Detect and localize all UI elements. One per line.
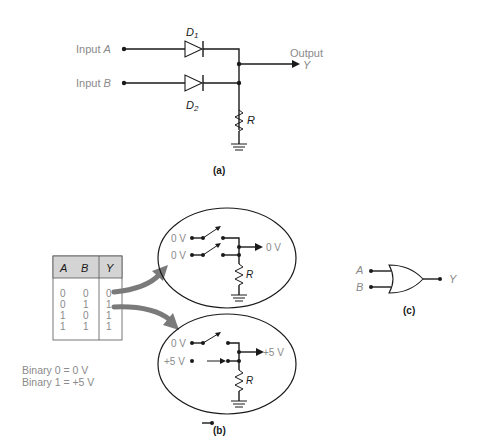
circuit-case-01: 0 V +5 V +5 V R: [158, 314, 296, 414]
ground-icon: [231, 401, 247, 407]
svg-text:1: 1: [106, 299, 112, 310]
header-b: B: [81, 262, 88, 274]
open-switch-icon: [203, 334, 218, 343]
resistor-label: R: [246, 269, 253, 280]
diode-d2-icon: [185, 75, 203, 91]
ground-icon: [231, 144, 247, 150]
wire: [203, 49, 239, 130]
resistor-label: R: [246, 375, 253, 386]
gate-output-y: Y: [449, 273, 457, 285]
output-voltage: 0 V: [266, 242, 281, 253]
input-a-label: Input A: [76, 43, 111, 55]
output-var: Y: [303, 59, 311, 71]
d2-label: D2: [186, 99, 199, 113]
caption-c: (c): [403, 305, 415, 316]
input-2-voltage: +5 V: [164, 356, 185, 367]
input-b-label: Input B: [76, 77, 111, 89]
svg-text:1: 1: [83, 321, 89, 332]
output-arrow-icon: [292, 60, 300, 68]
svg-text:0: 0: [83, 310, 89, 321]
header-a: A: [59, 262, 67, 274]
or-gate-figure: Input A D1 Input B D2 Output Y R: [0, 0, 483, 447]
resistor-icon: [235, 370, 243, 391]
gate-input-a: A: [355, 264, 363, 276]
svg-text:1: 1: [60, 321, 66, 332]
or-gate-symbol: A B Y (c): [355, 264, 457, 316]
caption-b: (b): [213, 425, 226, 436]
resistor-icon: [235, 264, 243, 285]
gate-input-b: B: [356, 281, 363, 293]
circuit-case-00: 0 V 0 V 0 V R: [158, 208, 296, 308]
caption-a: (a): [213, 165, 225, 176]
truth-table: A B Y 0 0 0 0 1 1 1 0 1 1 1 1: [53, 256, 122, 340]
output-arrow-icon: [255, 243, 263, 251]
svg-text:1: 1: [106, 310, 112, 321]
input-1-voltage: 0 V: [171, 338, 186, 349]
d1-label: D1: [186, 26, 198, 40]
input-2-voltage: 0 V: [171, 250, 186, 261]
junction-dot: [237, 81, 241, 85]
curved-arrow-icon: [114, 307, 179, 330]
svg-text:0: 0: [106, 288, 112, 299]
ground-icon: [231, 295, 247, 301]
input-1-voltage: 0 V: [171, 233, 186, 244]
header-y: Y: [106, 262, 114, 274]
output-label: Output: [290, 47, 323, 59]
svg-text:1: 1: [83, 299, 89, 310]
truth-table-figure: A B Y 0 0 0 0 1 1 1 0 1 1 1 1: [22, 208, 296, 436]
diode-or-circuit: Input A D1 Input B D2 Output Y R: [76, 26, 323, 176]
open-switch-icon: [203, 228, 218, 238]
or-gate-icon: [389, 265, 423, 293]
svg-text:0: 0: [83, 288, 89, 299]
svg-text:0: 0: [60, 299, 66, 310]
legend-binary-0: Binary 0 = 0 V: [22, 364, 88, 376]
svg-text:1: 1: [60, 310, 66, 321]
output-voltage: +5 V: [263, 347, 284, 358]
diode-d1-icon: [185, 41, 203, 57]
open-switch-icon: [203, 245, 218, 255]
svg-text:1: 1: [106, 321, 112, 332]
svg-text:0: 0: [60, 288, 66, 299]
legend-binary-1: Binary 1 = +5 V: [22, 376, 94, 388]
resistor-label: R: [247, 114, 255, 126]
